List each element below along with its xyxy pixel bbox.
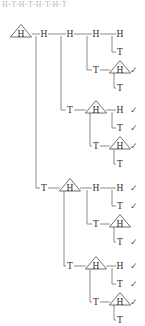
- tree-node: T: [117, 315, 123, 325]
- node-label: H: [67, 183, 74, 193]
- tree-node-triangle: H✓: [110, 61, 139, 75]
- node-label: T: [67, 261, 73, 271]
- tree-node: T✓: [117, 201, 138, 211]
- node-label: H: [117, 29, 124, 39]
- node-label: H: [18, 29, 25, 39]
- node-label: H: [93, 261, 100, 271]
- tree-node: T: [67, 105, 73, 115]
- tree-node: T: [117, 83, 123, 93]
- tree-node: T: [93, 219, 99, 229]
- checkmark-icon: ✓: [130, 141, 138, 151]
- tree-node: T✓: [117, 279, 138, 289]
- checkmark-icon: ✓: [130, 183, 138, 193]
- tree-node: T: [93, 65, 99, 75]
- tree-node: T: [93, 141, 99, 151]
- checkmark-icon: ✓: [130, 201, 138, 211]
- probability-tree-diagram: H-T-H-T-H-T-H-T: [0, 0, 145, 326]
- node-label: H: [117, 105, 124, 115]
- tree-node: H: [93, 183, 100, 193]
- tree-node: T✓: [117, 123, 138, 133]
- node-label: T: [93, 141, 99, 151]
- tree-node-triangle: H: [86, 257, 107, 271]
- checkmark-icon: ✓: [130, 279, 138, 289]
- node-label: T: [117, 315, 123, 325]
- tree-node: H: [41, 29, 48, 39]
- tree-node: H✓: [117, 105, 138, 115]
- tree-node-triangle: H: [11, 25, 32, 39]
- node-label: H: [93, 29, 100, 39]
- checkmark-icon: ✓: [130, 65, 138, 75]
- checkmark-icon: ✓: [130, 261, 138, 271]
- node-label: T: [117, 201, 123, 211]
- node-label: T: [41, 183, 47, 193]
- tree-node: T✓: [117, 237, 138, 247]
- node-label: T: [117, 279, 123, 289]
- tree-nodes: HHHHHTTH✓TTHH✓T✓TH✓TTHHH✓T✓THT✓THH✓T✓TH✓…: [11, 25, 139, 325]
- node-label: T: [117, 123, 123, 133]
- node-label: H: [67, 29, 74, 39]
- node-label: H: [93, 105, 100, 115]
- tree-node-triangle: H: [110, 215, 131, 229]
- node-label: T: [93, 219, 99, 229]
- node-label: H: [117, 261, 124, 271]
- node-label: T: [67, 105, 73, 115]
- checkmark-icon: ✓: [130, 105, 138, 115]
- node-label: T: [93, 297, 99, 307]
- checkmark-icon: ✓: [130, 237, 138, 247]
- tree-node: T: [117, 47, 123, 57]
- node-label: T: [117, 237, 123, 247]
- tree-node-triangle: H✓: [110, 293, 139, 307]
- tree-node-triangle: H: [86, 101, 107, 115]
- node-label: H: [41, 29, 48, 39]
- tree-node: T: [93, 297, 99, 307]
- tree-node: H✓: [117, 183, 138, 193]
- tree-node-triangle: H: [60, 179, 81, 193]
- node-label: T: [93, 65, 99, 75]
- node-label: H: [117, 219, 124, 229]
- tree-node-triangle: H✓: [110, 137, 139, 151]
- node-label: H: [93, 183, 100, 193]
- checkmark-icon: ✓: [130, 297, 138, 307]
- tree-svg: HHHHHTTH✓TTHH✓T✓TH✓TTHHH✓T✓THT✓THH✓T✓TH✓…: [0, 0, 145, 326]
- tree-node: T: [41, 183, 47, 193]
- tree-node: H✓: [117, 261, 138, 271]
- tree-node: H: [117, 29, 124, 39]
- checkmark-icon: ✓: [130, 123, 138, 133]
- node-label: H: [117, 65, 124, 75]
- node-label: T: [117, 159, 123, 169]
- node-label: H: [117, 141, 124, 151]
- tree-node: T: [67, 261, 73, 271]
- tree-node: H: [93, 29, 100, 39]
- tree-node: H: [67, 29, 74, 39]
- node-label: H: [117, 297, 124, 307]
- tree-node: T: [117, 159, 123, 169]
- tree-edges: [32, 34, 116, 320]
- node-label: H: [117, 183, 124, 193]
- node-label: T: [117, 47, 123, 57]
- node-label: T: [117, 83, 123, 93]
